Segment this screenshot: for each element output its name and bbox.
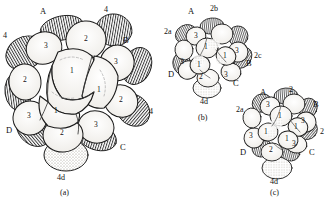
panel-a-cell-2-br: 2 bbox=[119, 96, 123, 104]
panel-c-label-2a: 2a bbox=[236, 106, 244, 114]
panel-a-cell-3-tl: 3 bbox=[44, 42, 48, 50]
panel-b-cell-1-c: 1 bbox=[204, 43, 208, 51]
panel-a-tier-4-right: 4 bbox=[149, 108, 153, 116]
panel-b-cell-2-b: 2 bbox=[199, 73, 203, 81]
panel-b-cell-3-t: 3 bbox=[194, 32, 198, 40]
panel-a-label-D: D bbox=[6, 126, 12, 135]
panel-b-label-4d: 4d bbox=[200, 98, 208, 106]
panel-a-tier-4-top: 4 bbox=[104, 6, 108, 14]
panel-b-cell-3-br: 3 bbox=[224, 71, 228, 79]
panel-c-cell-2-b: 2 bbox=[269, 146, 273, 154]
panel-b-label-A: A bbox=[188, 7, 194, 16]
panel-c-cell-1-b: 1 bbox=[285, 135, 289, 143]
panel-c-label-A: A bbox=[260, 88, 266, 97]
panel-c-label-D: D bbox=[240, 148, 246, 157]
panel-a-cell-3-r: 3 bbox=[114, 58, 118, 66]
panel-a-cell-2-tr: 2 bbox=[84, 35, 88, 43]
panel-c-tier-2-right: 2 bbox=[320, 128, 324, 136]
panel-a-cell-1-bl: 1 bbox=[54, 107, 58, 115]
panel-b-label-B: B bbox=[246, 59, 252, 68]
panel-c-cell-1-c: 1 bbox=[278, 112, 282, 120]
panel-a-label-C: C bbox=[120, 143, 126, 152]
panel-b-caption: (b) bbox=[198, 114, 207, 122]
panel-a-cell-1-c: 1 bbox=[70, 67, 74, 75]
panel-c-caption: (c) bbox=[270, 189, 279, 197]
panel-a-label-B: B bbox=[123, 36, 129, 45]
panel-a-cell-3-bl: 3 bbox=[27, 112, 31, 120]
panel-b-cell-1-rc: 1 bbox=[223, 52, 227, 60]
panel-a-caption: (a) bbox=[60, 189, 69, 197]
panel-a-tier-4-left: 4 bbox=[3, 32, 7, 40]
panel-c-label-C: C bbox=[309, 148, 315, 157]
figure-container: A B C D 4 4 4 4d 3 2 3 2 2 1 1 1 3 2 3 (… bbox=[0, 0, 329, 204]
panel-b-label-2c: 2c bbox=[254, 52, 262, 60]
panel-b-label-C: C bbox=[233, 79, 239, 88]
panel-a-cell-2-l: 2 bbox=[23, 76, 27, 84]
panel-c-cell-3-r: 3 bbox=[301, 117, 305, 125]
panel-c-tier-2-top: 2 bbox=[289, 86, 293, 94]
panel-b-label-D: D bbox=[168, 70, 174, 79]
panel-c-cell-1-bl: 1 bbox=[264, 128, 268, 136]
panel-b-label-2b: 2b bbox=[210, 5, 218, 13]
panel-a-cell-2-b: 2 bbox=[60, 129, 64, 137]
panel-c-label-4d: 4d bbox=[270, 178, 278, 186]
panel-b-cell-1-b: 1 bbox=[197, 61, 201, 69]
panel-c-cell-3-l: 3 bbox=[249, 132, 253, 140]
panel-c-label-B: B bbox=[313, 100, 319, 109]
panel-b-label-2a: 2a bbox=[164, 28, 172, 36]
panel-b-cell-3-r: 3 bbox=[235, 47, 239, 55]
panel-b-cell-3-l: 3 bbox=[180, 58, 184, 66]
panel-c-cell-3-t: 3 bbox=[266, 101, 270, 109]
panel-a-embryo bbox=[0, 11, 157, 171]
panel-c-cell-1-rc: 1 bbox=[294, 123, 298, 131]
panel-a-label-A: A bbox=[40, 7, 46, 16]
panel-a-cell-1-cr: 1 bbox=[97, 86, 101, 94]
panel-c-cell-3-br: 3 bbox=[292, 140, 296, 148]
panel-a-cell-3-bc: 3 bbox=[94, 121, 98, 129]
panel-a-label-4d: 4d bbox=[57, 174, 65, 182]
